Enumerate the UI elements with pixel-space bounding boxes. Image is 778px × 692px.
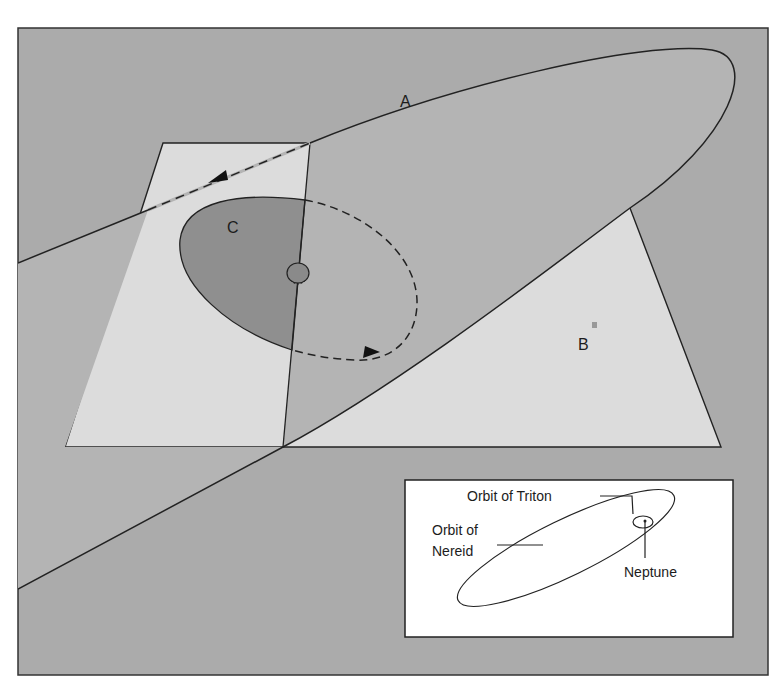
inset-neptune-label: Neptune [624, 564, 677, 580]
orbit-diagram: A B C Orbit of Triton Orbit of Nereid Ne… [0, 0, 778, 692]
label-b: B [578, 336, 589, 353]
inset-nereid-label-2: Nereid [432, 543, 473, 559]
inset-triton-label: Orbit of Triton [467, 488, 552, 504]
inset-nereid-label-1: Orbit of [432, 522, 478, 538]
satellite-dot [592, 322, 597, 328]
inset-legend: Orbit of Triton Orbit of Nereid Neptune [405, 470, 733, 637]
label-c: C [227, 219, 239, 236]
label-a: A [400, 93, 411, 110]
